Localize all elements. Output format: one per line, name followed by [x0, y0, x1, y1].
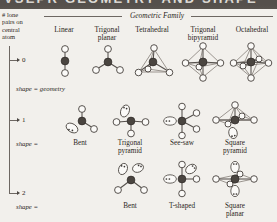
shape-label-square-pyramid-line-1: pyramid: [210, 147, 260, 155]
axis-value-0: 0: [22, 56, 26, 64]
column-header-octahedral: Octahedral: [228, 26, 276, 34]
column-header-tetrahedral-line-0: Tetrahedral: [126, 26, 178, 34]
title-bar-crop-fade: [0, 0, 277, 9]
shape-label-bent-2lp-line-0: Bent: [106, 202, 154, 210]
shape-label-see-saw: See-saw: [156, 139, 208, 147]
molecule-square-planar-2lp: [212, 160, 258, 198]
column-header-linear: Linear: [42, 26, 86, 34]
shape-label-square-pyramid-line-0: Square: [210, 139, 260, 147]
column-header-octahedral-line-0: Octahedral: [228, 26, 276, 34]
axis-value-1: 1: [22, 116, 26, 124]
column-header-trigonal-planar-line-1: planar: [84, 34, 130, 42]
shape-label-bent-1lp: Bent: [58, 139, 102, 147]
axis-arrow-1: [17, 118, 20, 122]
axis-value-2: 2: [22, 189, 26, 197]
molecule-octahedral-0lp: [230, 42, 272, 82]
shape-label-square-pyramid: Square pyramid: [210, 139, 260, 155]
axis-label-line-1: pairs on: [2, 18, 42, 25]
shape-label-bent-2lp: Bent: [106, 202, 154, 210]
row-0-shape-equals: shape = geometry: [16, 85, 65, 92]
molecule-tetrahedral-0lp: [134, 43, 174, 79]
row-2-shape-equals: shape =: [16, 203, 38, 210]
shape-label-t-shaped-line-0: T-shaped: [156, 202, 208, 210]
axis-arrow-0: [17, 58, 20, 62]
family-rule-right: [191, 16, 273, 17]
column-header-trigonal-bipyramid: Trigonal bipyramid: [178, 26, 228, 43]
shape-label-t-shaped: T-shaped: [156, 202, 208, 210]
molecule-trigonal-planar-0lp: [90, 44, 126, 78]
axis-label-line-3: atom: [2, 33, 42, 40]
shape-label-trigonal-pyramid-line-1: pyramid: [106, 147, 154, 155]
column-header-tetrahedral: Tetrahedral: [126, 26, 178, 34]
shape-label-square-planar-line-1: planar: [210, 210, 260, 218]
column-header-linear-line-0: Linear: [42, 26, 86, 34]
molecule-bent-2lp: [110, 161, 152, 195]
shape-label-square-planar-line-0: Square: [210, 202, 260, 210]
axis-arrow-2: [17, 191, 20, 195]
shape-label-square-planar: Square planar: [210, 202, 260, 218]
molecule-trigonal-pyramid-1lp: [110, 104, 152, 138]
axis-label-line-0: # lone: [2, 11, 42, 18]
shape-label-see-saw-line-0: See-saw: [156, 139, 208, 147]
molecule-bent-1lp: [62, 104, 100, 138]
figure-title-bar: VSEPR GEOMETRY AND SHAPE: [0, 0, 277, 9]
molecule-see-saw-1lp: [160, 102, 204, 140]
molecule-linear-0lp: [50, 44, 80, 78]
axis-tick-2: [9, 193, 17, 194]
column-header-trigonal-planar: Trigonal planar: [84, 26, 130, 43]
molecule-square-pyramid-1lp: [212, 101, 258, 141]
shape-label-trigonal-pyramid: Trigonal pyramid: [106, 139, 154, 155]
geometric-family-title: Geometric Family: [122, 11, 192, 20]
vsepr-chart-figure: VSEPR GEOMETRY AND SHAPE # lone pairs on…: [0, 0, 277, 222]
shape-label-bent-1lp-line-0: Bent: [58, 139, 102, 147]
shape-label-trigonal-pyramid-line-0: Trigonal: [106, 139, 154, 147]
molecule-trigonal-bipyramid-0lp: [182, 42, 224, 82]
axis-label-line-2: central: [2, 26, 42, 33]
lone-pairs-axis-label: # lone pairs on central atom: [2, 11, 42, 41]
molecule-t-shaped-2lp: [160, 160, 204, 198]
row-1-shape-equals: shape =: [16, 140, 38, 147]
family-rule-left: [44, 16, 122, 17]
